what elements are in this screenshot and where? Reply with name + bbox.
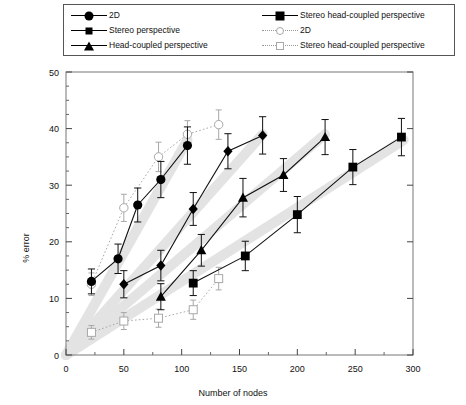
circle-filled-icon [69, 8, 109, 23]
data-point-square-filled [293, 210, 302, 219]
x-tick-label: 100 [174, 364, 189, 374]
y-tick-label: 50 [49, 68, 59, 78]
data-point-diamond-filled [223, 146, 232, 156]
y-tick-label: 10 [49, 294, 59, 304]
x-tick-label: 50 [119, 364, 129, 374]
square-open-icon [260, 38, 300, 53]
data-point-circle-filled [87, 277, 96, 286]
legend-item: Stereo head-coupled perspective [260, 8, 425, 23]
y-tick-label: 40 [49, 124, 59, 134]
trend-band [66, 134, 325, 355]
legend-item: Head-coupled perspective [69, 38, 208, 53]
y-tick-label: 20 [49, 237, 59, 247]
data-point-circle-open [214, 120, 222, 128]
legend-item: 2D [69, 8, 208, 23]
data-point-square-open [189, 306, 197, 314]
data-point-square-open [120, 317, 128, 325]
data-point-circle-filled [183, 141, 192, 150]
x-tick-label: 0 [63, 364, 68, 374]
data-point-circle-filled [133, 200, 142, 209]
diamond-filled-icon [69, 23, 109, 38]
x-tick-label: 250 [348, 364, 363, 374]
chart-figure: 2D Stereo perspective Head-coupled persp… [0, 0, 466, 405]
data-point-square-filled [189, 279, 198, 288]
legend-item-label: 2D [109, 11, 120, 20]
legend-item-label: Stereo perspective [109, 26, 180, 35]
y-tick-label: 30 [49, 181, 59, 191]
data-point-square-filled [348, 163, 357, 172]
data-point-circle-open [154, 153, 162, 161]
data-point-circle-filled [113, 254, 122, 263]
legend-column-left: 2D Stereo perspective Head-coupled persp… [69, 8, 208, 53]
triangle-filled-icon [69, 38, 109, 53]
data-point-circle-filled [156, 175, 165, 184]
data-point-square-open [87, 328, 95, 336]
series-square-filled [189, 118, 406, 295]
legend-item: Stereo head-coupled perspective [260, 38, 425, 53]
chart-legend: 2D Stereo perspective Head-coupled persp… [63, 4, 455, 56]
circle-open-icon [260, 23, 300, 38]
x-tick-label: 150 [232, 364, 247, 374]
square-filled-icon [260, 8, 300, 23]
data-point-square-open [215, 275, 223, 283]
y-tick-label: 0 [54, 351, 59, 361]
y-axis-label: % error [21, 213, 31, 283]
x-axis-label: Number of nodes [0, 388, 466, 398]
legend-item-label: Stereo head-coupled perspective [300, 41, 425, 50]
legend-item-label: Head-coupled perspective [109, 41, 208, 50]
data-point-square-open [155, 314, 163, 322]
legend-item-label: Stereo head-coupled perspective [300, 11, 425, 20]
legend-column-right: Stereo head-coupled perspective 2D Stere… [260, 8, 425, 53]
legend-item-label: 2D [300, 26, 311, 35]
data-point-square-filled [241, 252, 250, 261]
legend-item: Stereo perspective [69, 23, 208, 38]
plot-area: 05010015020025030001020304050 % error Nu… [0, 58, 466, 405]
legend-item: 2D [260, 23, 425, 38]
x-tick-label: 200 [290, 364, 305, 374]
data-point-square-filled [397, 133, 406, 142]
data-point-circle-open [120, 204, 128, 212]
x-tick-label: 300 [405, 364, 420, 374]
chart-canvas: 05010015020025030001020304050 [0, 58, 466, 405]
